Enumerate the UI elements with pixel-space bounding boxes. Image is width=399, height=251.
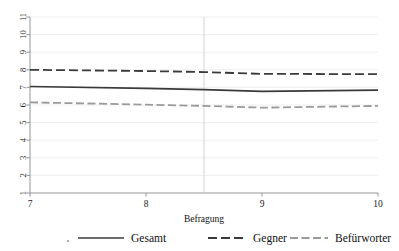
x-tick-label: 8	[144, 199, 149, 209]
chart-legend: GesamtGegnerBefürworter	[67, 232, 391, 245]
y-tick-label: 2	[18, 173, 28, 177]
chart-canvas: 1234567891011 78910 Befragung GesamtGegn…	[0, 0, 399, 251]
y-tick-label: 10	[18, 30, 28, 39]
x-tick-label: 9	[260, 199, 265, 209]
y-tick-label: 9	[18, 50, 28, 54]
x-tick-label: 7	[28, 199, 33, 209]
legend-label-bef-rworter: Befürworter	[335, 232, 391, 244]
y-axis-tick-labels: 1234567891011	[18, 13, 28, 195]
y-tick-label: 7	[18, 85, 28, 89]
legend-label-gegner: Gegner	[253, 232, 287, 245]
y-tick-label: 11	[18, 13, 28, 21]
y-tick-label: 5	[18, 120, 28, 124]
legend-label-gesamt: Gesamt	[131, 232, 167, 244]
line-chart: 1234567891011 78910 Befragung GesamtGegn…	[0, 0, 399, 251]
x-axis-title: Befragung	[184, 214, 224, 224]
y-tick-label: 3	[18, 156, 28, 160]
y-tick-label: 4	[18, 137, 28, 142]
y-tick-label: 1	[18, 191, 28, 195]
x-axis-tick-labels: 78910	[28, 199, 383, 209]
y-tick-label: 6	[18, 103, 28, 107]
x-tick-label: 10	[373, 199, 383, 209]
legend-origin-dot	[67, 240, 69, 242]
y-tick-label: 8	[18, 68, 28, 72]
